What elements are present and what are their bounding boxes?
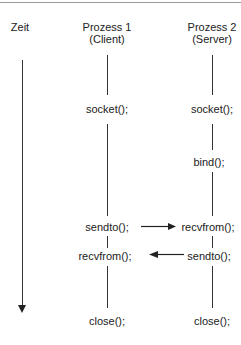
server-sendto-call: sendto(); xyxy=(187,250,230,262)
arrow-right-icon xyxy=(168,223,176,230)
server-lifeline xyxy=(212,172,213,216)
client-recvfrom-call: recvfrom(); xyxy=(78,250,131,262)
arrows-layer xyxy=(0,0,241,345)
server-lifeline xyxy=(212,266,213,308)
server-lifeline xyxy=(212,236,213,248)
server-lifeline xyxy=(212,55,213,95)
client-lifeline xyxy=(107,55,108,95)
server-close-call: close(); xyxy=(194,315,230,327)
time-axis-arrowhead-icon xyxy=(18,305,26,313)
client-lifeline xyxy=(107,124,108,216)
client-lifeline xyxy=(107,236,108,248)
client-sendto-call: sendto(); xyxy=(85,221,128,233)
server-bind-call: bind(); xyxy=(193,156,224,168)
server-recvfrom-call: recvfrom(); xyxy=(181,221,234,233)
arrow-left-icon xyxy=(149,251,158,258)
client-socket-call: socket(); xyxy=(86,103,128,115)
client-lifeline xyxy=(107,266,108,308)
server-socket-call: socket(); xyxy=(191,103,233,115)
server-lifeline xyxy=(212,124,213,150)
client-close-call: close(); xyxy=(89,315,125,327)
